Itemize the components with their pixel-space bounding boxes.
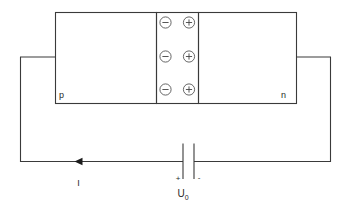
voltage-subscript: 0	[185, 194, 189, 201]
charge-pair-row-1	[160, 17, 195, 28]
positive-charge-icon	[183, 84, 194, 95]
p-region-rect	[56, 13, 157, 104]
right-circuit-wire	[194, 57, 331, 162]
n-region-label: n	[281, 90, 286, 100]
depletion-charge-symbols	[160, 17, 195, 95]
left-circuit-wire	[21, 57, 184, 162]
negative-charge-icon	[160, 17, 171, 28]
current-label: I	[77, 178, 80, 188]
voltage-symbol: U	[177, 188, 184, 199]
pn-junction-diagram: p n I + - U0	[0, 0, 350, 211]
diagram-canvas: p n I + - U0	[0, 0, 350, 211]
voltage-label: U0	[177, 188, 188, 201]
negative-charge-icon	[160, 84, 171, 95]
external-circuit-wiring	[21, 57, 331, 162]
negative-charge-icon	[160, 51, 171, 62]
semiconductor-bar	[56, 13, 297, 104]
battery-minus-label: -	[198, 173, 201, 182]
current-arrow	[75, 158, 83, 165]
positive-charge-icon	[183, 17, 194, 28]
p-region-label: p	[59, 90, 64, 100]
battery-plus-label: +	[176, 174, 181, 183]
current-arrowhead-icon	[75, 158, 83, 165]
positive-charge-icon	[183, 51, 194, 62]
charge-pair-row-2	[160, 51, 195, 62]
charge-pair-row-3	[160, 84, 195, 95]
battery-symbol	[183, 144, 194, 180]
